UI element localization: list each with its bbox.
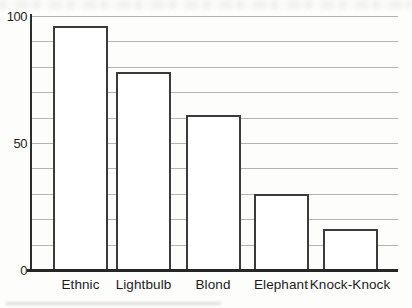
category-label-ethnic: Ethnic bbox=[61, 277, 99, 292]
y-axis-line bbox=[30, 14, 32, 271]
scan-noise-bottom bbox=[6, 302, 221, 305]
ytick-label-50: 50 bbox=[0, 136, 27, 151]
category-label-lightbulb: Lightbulb bbox=[116, 277, 172, 292]
plot-area bbox=[31, 16, 397, 270]
bar-blond bbox=[186, 115, 241, 270]
category-label-blond: Blond bbox=[195, 277, 230, 292]
ytick-label-0: 0 bbox=[0, 263, 27, 278]
category-label-elephant: Elephant bbox=[254, 277, 308, 292]
scan-noise-top bbox=[0, 0, 412, 9]
bar-lightbulb bbox=[116, 72, 171, 270]
ytick-label-100: 100 bbox=[0, 9, 27, 24]
x-axis-line bbox=[27, 269, 398, 272]
category-label-knock-knock: Knock-Knock bbox=[310, 277, 391, 292]
bar-ethnic bbox=[53, 26, 108, 270]
bar-knock-knock bbox=[323, 229, 378, 270]
scanned-bar-chart-page: EthnicLightbulbBlondElephantKnock-Knock1… bbox=[0, 0, 412, 308]
bar-elephant bbox=[254, 194, 309, 270]
gridline-100 bbox=[31, 16, 398, 17]
